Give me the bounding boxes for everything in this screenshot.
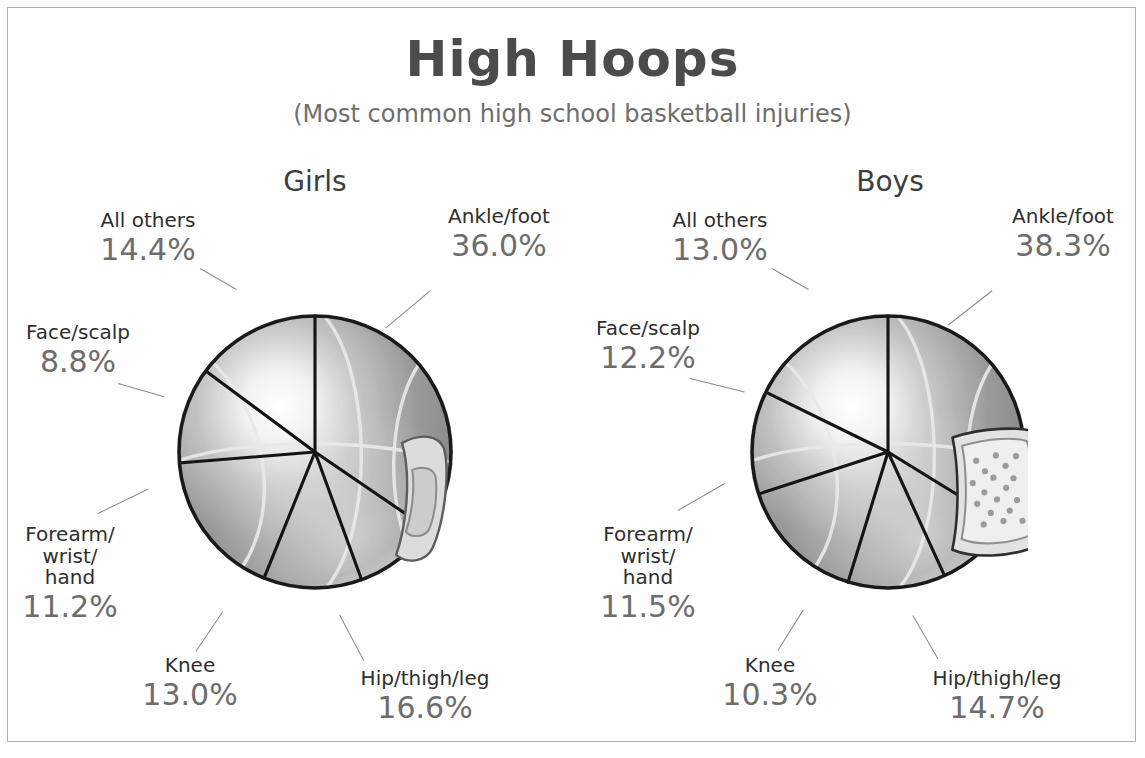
label-percent: 11.2% xyxy=(10,591,130,623)
label-percent: 13.0% xyxy=(130,679,250,711)
label-percent: 8.8% xyxy=(8,346,148,378)
label-name: Forearm/wrist/hand xyxy=(588,524,708,589)
label-boys-hip: Hip/thigh/leg 14.7% xyxy=(912,668,1082,724)
label-name: All others xyxy=(78,210,218,232)
pie-chart-boys xyxy=(748,312,1028,592)
label-boys-knee: Knee 10.3% xyxy=(710,655,830,711)
label-boys-face-scalp: Face/scalp 12.2% xyxy=(578,318,718,374)
label-name: Hip/thigh/leg xyxy=(340,668,510,690)
label-percent: 11.5% xyxy=(588,591,708,623)
basketball-pie-boys xyxy=(748,312,1028,592)
label-name: Face/scalp xyxy=(578,318,718,340)
label-name: Ankle/foot xyxy=(988,206,1138,228)
label-girls-forearm: Forearm/wrist/hand 11.2% xyxy=(10,524,130,623)
label-girls-knee: Knee 13.0% xyxy=(130,655,250,711)
panel-title-girls: Girls xyxy=(215,165,415,198)
panel-title-boys: Boys xyxy=(790,165,990,198)
page-subtitle: (Most common high school basketball inju… xyxy=(0,100,1145,128)
label-percent: 13.0% xyxy=(650,234,790,266)
label-girls-all-others: All others 14.4% xyxy=(78,210,218,266)
label-boys-forearm: Forearm/wrist/hand 11.5% xyxy=(588,524,708,623)
basketball-pie-girls xyxy=(175,312,455,592)
label-girls-ankle: Ankle/foot 36.0% xyxy=(424,206,574,262)
label-name: Knee xyxy=(130,655,250,677)
label-percent: 36.0% xyxy=(424,230,574,262)
label-name: Forearm/wrist/hand xyxy=(10,524,130,589)
label-name: All others xyxy=(650,210,790,232)
label-name: Face/scalp xyxy=(8,322,148,344)
label-girls-face-scalp: Face/scalp 8.8% xyxy=(8,322,148,378)
gauze-pad-icon xyxy=(944,426,1028,558)
label-percent: 16.6% xyxy=(340,692,510,724)
label-percent: 38.3% xyxy=(988,230,1138,262)
label-percent: 10.3% xyxy=(710,679,830,711)
label-boys-ankle: Ankle/foot 38.3% xyxy=(988,206,1138,262)
label-girls-hip: Hip/thigh/leg 16.6% xyxy=(340,668,510,724)
label-percent: 12.2% xyxy=(578,342,718,374)
page-title: High Hoops xyxy=(0,30,1145,88)
label-percent: 14.7% xyxy=(912,692,1082,724)
infographic-page: High Hoops (Most common high school bask… xyxy=(0,0,1145,758)
label-percent: 14.4% xyxy=(78,234,218,266)
label-name: Hip/thigh/leg xyxy=(912,668,1082,690)
label-boys-all-others: All others 13.0% xyxy=(650,210,790,266)
label-name: Ankle/foot xyxy=(424,206,574,228)
label-name: Knee xyxy=(710,655,830,677)
pie-chart-girls xyxy=(175,312,455,592)
